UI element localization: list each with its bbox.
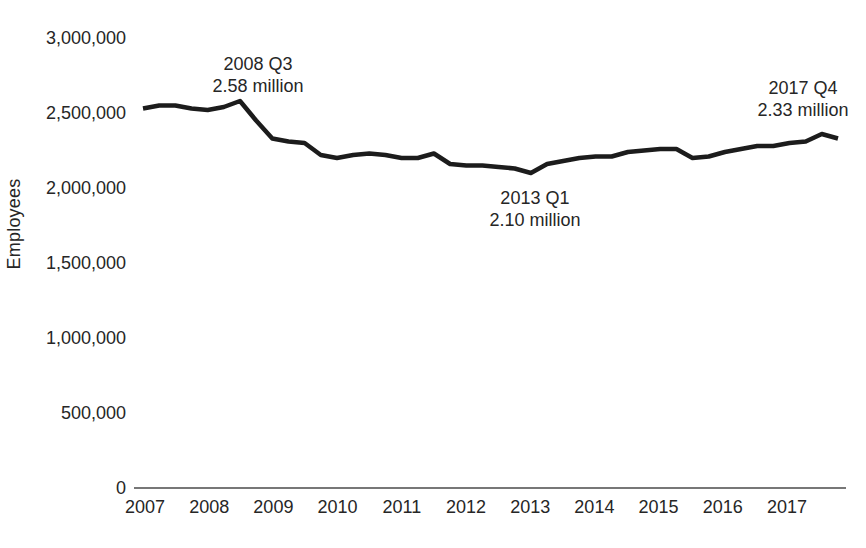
annotation-value: 2.10 million — [489, 209, 580, 231]
employees-line-chart: Employees 0500,0001,000,0001,500,0002,00… — [0, 0, 866, 548]
annotation-quarter: 2008 Q3 — [212, 53, 303, 75]
x-tick-label: 2017 — [754, 497, 820, 517]
x-tick-label: 2007 — [112, 497, 178, 517]
x-tick-label: 2008 — [176, 497, 242, 517]
y-tick-label: 2,000,000 — [8, 177, 126, 199]
y-tick-label: 1,000,000 — [8, 327, 126, 349]
x-tick-label: 2012 — [433, 497, 499, 517]
y-tick-label: 3,000,000 — [8, 27, 126, 49]
annotation-2008-q3: 2008 Q32.58 million — [212, 53, 303, 97]
employees-series-line — [143, 101, 838, 173]
x-tick-label: 2013 — [497, 497, 563, 517]
x-tick-label: 2014 — [561, 497, 627, 517]
y-tick-label: 0 — [8, 477, 126, 499]
annotation-quarter: 2017 Q4 — [757, 77, 848, 99]
y-tick-label: 500,000 — [8, 402, 126, 424]
chart-plot-area — [0, 0, 866, 548]
x-tick-label: 2016 — [690, 497, 756, 517]
y-tick-label: 1,500,000 — [8, 252, 126, 274]
annotation-value: 2.58 million — [212, 75, 303, 97]
x-tick-label: 2011 — [369, 497, 435, 517]
annotation-quarter: 2013 Q1 — [489, 187, 580, 209]
annotation-2017-q4: 2017 Q42.33 million — [757, 77, 848, 121]
x-tick-label: 2015 — [626, 497, 692, 517]
x-tick-label: 2010 — [305, 497, 371, 517]
annotation-value: 2.33 million — [757, 99, 848, 121]
annotation-2013-q1: 2013 Q12.10 million — [489, 187, 580, 231]
y-tick-label: 2,500,000 — [8, 102, 126, 124]
x-tick-label: 2009 — [240, 497, 306, 517]
